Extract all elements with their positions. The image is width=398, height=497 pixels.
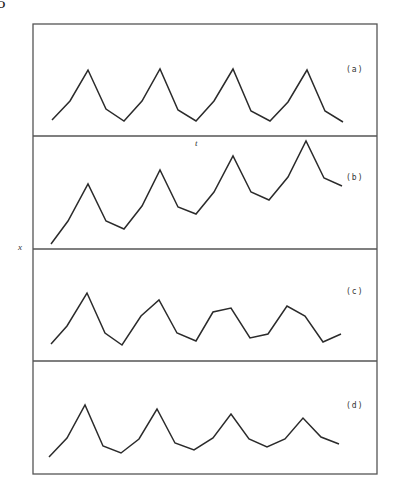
curve-panel-a <box>52 69 343 122</box>
panel-label-c: (c) <box>346 287 363 296</box>
panel-dividers <box>33 136 377 361</box>
figure: (a)(b)(c)(d) t x <box>0 0 398 497</box>
curves <box>49 69 343 457</box>
panel-label-b: (b) <box>346 173 363 182</box>
panel-labels: (a)(b)(c)(d) <box>346 65 363 410</box>
curve-panel-b <box>51 141 342 244</box>
t-axis-label: t <box>195 138 198 148</box>
curve-panel-d <box>49 405 339 457</box>
x-axis-label: x <box>17 242 22 252</box>
curve-panel-c <box>51 293 341 345</box>
panel-label-d: (d) <box>346 401 363 410</box>
panel-label-a: (a) <box>346 65 363 74</box>
